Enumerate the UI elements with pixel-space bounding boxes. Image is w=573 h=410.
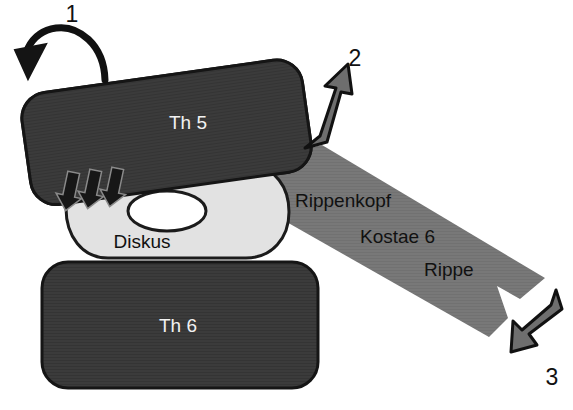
rib-head-label: Rippenkopf: [295, 190, 392, 211]
disk-label: Diskus: [113, 231, 170, 252]
rib-label: Rippe: [424, 259, 474, 280]
callout-3-group: 3: [511, 290, 562, 390]
callout-1-label: 1: [66, 1, 79, 27]
callout-2-label: 2: [349, 45, 362, 71]
spine-rib-diagram: 1 2 3 Th 5 Th 6 Diskus Ripp: [0, 0, 573, 410]
vertebra-th5-label: Th 5: [169, 112, 207, 133]
callout-3-label: 3: [546, 364, 559, 390]
callout-2-group: 2: [305, 45, 361, 148]
arrow-3-shape: [511, 290, 562, 352]
vertebra-th6-label: Th 6: [159, 315, 197, 336]
arrow-2-shape: [305, 64, 352, 148]
costa-label: Kostae 6: [360, 226, 435, 247]
callout-1-group: 1: [15, 1, 105, 80]
diagram-canvas: 1 2 3 Th 5 Th 6 Diskus Ripp: [0, 0, 573, 410]
disk-nucleus: [128, 191, 206, 231]
rotation-arrow-1-head: [15, 44, 46, 79]
